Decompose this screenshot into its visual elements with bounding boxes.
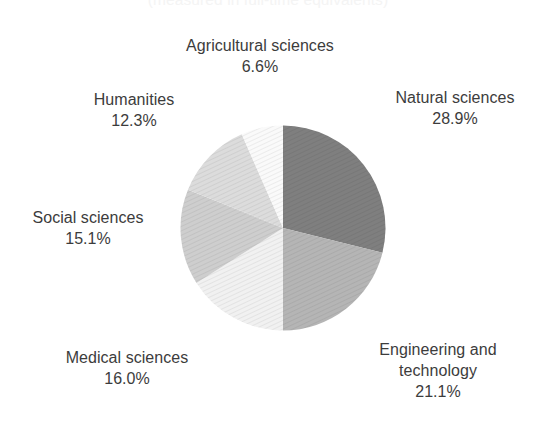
chart-canvas: (measured in full-time equivalents) Agri…	[0, 0, 536, 436]
slice-label-percent: 16.0%	[42, 369, 212, 390]
pie-chart	[180, 125, 386, 331]
slice-label-percent: 28.9%	[380, 109, 530, 130]
slice-label-natural-sciences: Natural sciences 28.9%	[380, 88, 530, 130]
slice-label-agricultural-sciences: Agricultural sciences 6.6%	[160, 36, 360, 78]
slice-label-engineering-and-technology: Engineering and technology 21.1%	[352, 340, 524, 402]
slice-label-name: Natural sciences	[380, 88, 530, 109]
slice-label-name-line2: technology	[352, 361, 524, 382]
slice-label-name: Humanities	[62, 90, 206, 111]
slice-label-percent: 6.6%	[160, 57, 360, 78]
slice-label-humanities: Humanities 12.3%	[62, 90, 206, 132]
pie-chart-svg	[180, 125, 386, 331]
slice-label-name: Agricultural sciences	[160, 36, 360, 57]
slice-label-name: Medical sciences	[42, 348, 212, 369]
slice-label-percent: 15.1%	[8, 229, 168, 250]
slice-label-name: Social sciences	[8, 208, 168, 229]
slice-label-social-sciences: Social sciences 15.1%	[8, 208, 168, 250]
slice-label-percent: 12.3%	[62, 111, 206, 132]
chart-subtitle-cropped: (measured in full-time equivalents)	[0, 0, 536, 9]
slice-label-name-line1: Engineering and	[352, 340, 524, 361]
slice-label-medical-sciences: Medical sciences 16.0%	[42, 348, 212, 390]
slice-label-percent: 21.1%	[352, 382, 524, 403]
